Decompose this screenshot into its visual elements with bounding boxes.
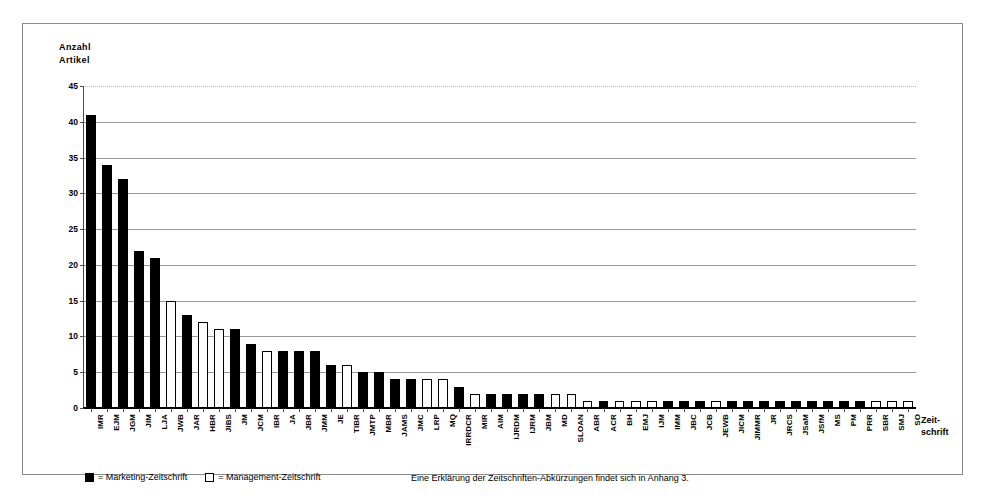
legend-label: = Management-Zeitschrift <box>218 472 320 482</box>
x-tick-slot <box>852 408 868 413</box>
x-tick-mark <box>539 408 540 412</box>
bar-slot <box>323 86 339 408</box>
bar-series <box>83 86 916 408</box>
x-tick-slot <box>531 408 547 413</box>
bar <box>358 372 368 408</box>
x-label-slot: AIM <box>483 414 499 462</box>
bar-slot <box>692 86 708 408</box>
bar-slot <box>772 86 788 408</box>
x-tick-slot <box>259 408 275 413</box>
x-tick-mark <box>203 408 204 412</box>
x-label-slot: JBC <box>676 414 692 462</box>
bar-slot <box>820 86 836 408</box>
x-label-slot: JMTP <box>355 414 371 462</box>
plot-area: 051015202530354045 <box>83 86 916 408</box>
x-tick-slot <box>419 408 435 413</box>
bar-slot <box>483 86 499 408</box>
x-tick-slot <box>83 408 99 413</box>
x-tick-slot <box>131 408 147 413</box>
bar <box>663 401 673 408</box>
bar <box>118 179 128 408</box>
x-tick-slot <box>483 408 499 413</box>
x-label-slot: JBM <box>531 414 547 462</box>
bar <box>839 401 849 408</box>
x-tick-mark <box>668 408 669 412</box>
x-label-slot: JWB <box>163 414 179 462</box>
bar <box>246 344 256 408</box>
bar <box>711 401 721 408</box>
x-tick-mark <box>443 408 444 412</box>
x-label-slot: IMR <box>83 414 99 462</box>
bar-slot <box>724 86 740 408</box>
x-tick-slot <box>628 408 644 413</box>
bar-slot <box>307 86 323 408</box>
x-label-slot: JICM <box>724 414 740 462</box>
bar <box>150 258 160 408</box>
y-tick-label: 25 <box>69 224 78 234</box>
x-tick-mark <box>411 408 412 412</box>
x-tick-mark <box>555 408 556 412</box>
x-tick-slot <box>563 408 579 413</box>
x-tick-mark <box>187 408 188 412</box>
bar-slot <box>499 86 515 408</box>
x-tick-slot <box>579 408 595 413</box>
x-tick-mark <box>395 408 396 412</box>
x-tick-mark <box>507 408 508 412</box>
x-tick-slot <box>868 408 884 413</box>
x-label-slot: JIM <box>131 414 147 462</box>
x-tick-slot <box>307 408 323 413</box>
bar-slot <box>179 86 195 408</box>
x-tick-mark <box>716 408 717 412</box>
bar <box>599 401 609 408</box>
x-label-slot: SLOAN <box>563 414 579 462</box>
x-tick-slot <box>547 408 563 413</box>
y-tick-label: 45 <box>69 81 78 91</box>
x-tick-slot <box>211 408 227 413</box>
bar <box>871 401 881 408</box>
x-tick-mark <box>299 408 300 412</box>
bar <box>166 301 176 408</box>
x-tick-mark <box>267 408 268 412</box>
y-tick-label: 35 <box>69 153 78 163</box>
x-label-slot: PRR <box>852 414 868 462</box>
bar <box>567 394 577 408</box>
y-axis-title: Anzahl Artikel <box>59 41 91 67</box>
bar-slot <box>131 86 147 408</box>
x-tick-mark <box>107 408 108 412</box>
x-label-slot: JMC <box>403 414 419 462</box>
x-label-slot: EJM <box>99 414 115 462</box>
x-label-slot: JIMMR <box>740 414 756 462</box>
bar <box>631 401 641 408</box>
bar <box>518 394 528 408</box>
x-tick-mark <box>379 408 380 412</box>
x-tick-mark <box>315 408 316 412</box>
bar <box>454 387 464 408</box>
x-tick-mark <box>652 408 653 412</box>
bar <box>759 401 769 408</box>
x-label-slot: JCM <box>243 414 259 462</box>
x-tick-mark <box>347 408 348 412</box>
x-tick-slot <box>740 408 756 413</box>
bar-slot <box>612 86 628 408</box>
hollow-square-icon <box>205 473 214 482</box>
x-label-slot: MS <box>820 414 836 462</box>
x-tick-slot <box>163 408 179 413</box>
bar-slot <box>419 86 435 408</box>
bar-slot <box>435 86 451 408</box>
x-label-slot: JAMS <box>387 414 403 462</box>
x-tick-slot <box>820 408 836 413</box>
x-label-slot: ACR <box>596 414 612 462</box>
bar <box>695 401 705 408</box>
bar <box>278 351 288 408</box>
x-tick-label: SO <box>912 414 921 426</box>
x-label-slot: JGM <box>115 414 131 462</box>
x-tick-mark <box>860 408 861 412</box>
x-tick-slot <box>788 408 804 413</box>
x-tick-slot <box>403 408 419 413</box>
bar <box>534 394 544 408</box>
x-label-slot: JE <box>323 414 339 462</box>
x-tick-marks <box>83 408 916 413</box>
bar-slot <box>99 86 115 408</box>
chart-legend: = Marketing-Zeitschrift= Management-Zeit… <box>85 472 339 482</box>
bar <box>551 394 561 408</box>
